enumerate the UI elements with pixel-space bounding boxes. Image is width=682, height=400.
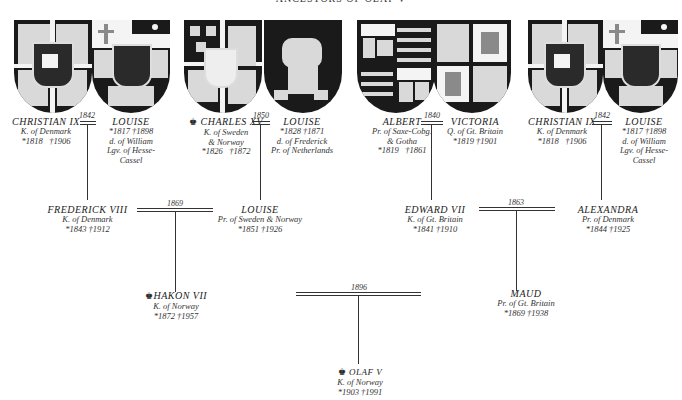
marriage-year: 1869 — [155, 199, 195, 208]
person-title: Pr. of Netherlands — [262, 146, 342, 156]
person-dates: *1851 †1926 — [210, 225, 310, 235]
crown-icon: ♚ — [338, 367, 347, 377]
person-alexandra: ALEXANDRA Pr. of Denmark *1844 †1925 — [568, 204, 648, 234]
coat-of-arms-christian-louise — [14, 20, 172, 113]
person-olaf-v: ♚ OLAF V K. of Norway *1903 †1991 — [325, 367, 395, 397]
person-victoria: VICTORIA Q. of Gt. Britain *1819 †1901 — [440, 116, 510, 146]
coat-of-arms-albert-victoria — [357, 20, 511, 113]
person-title: Cassel — [608, 156, 680, 166]
marriage-year: 1863 — [496, 198, 536, 207]
descent-line — [431, 124, 432, 200]
hesse-shield-icon — [603, 20, 678, 113]
person-louise-sweden: LOUISE Pr. of Sweden & Norway *1851 †192… — [210, 204, 310, 234]
denmark-shield-icon — [14, 20, 92, 113]
person-hakon-vii: ♚HAKON VII K. of Norway *1872 †1957 — [136, 290, 216, 321]
sweden-norway-shield-icon — [184, 20, 262, 113]
descent-line — [516, 211, 517, 291]
person-frederick-viii: FREDERICK VIII K. of Denmark *1843 †1912 — [40, 204, 135, 234]
person-dates: *1818 †1906 — [522, 137, 602, 147]
person-dates: *1843 †1912 — [40, 225, 135, 235]
descent-line — [87, 124, 88, 200]
hesse-shield-icon — [92, 20, 170, 113]
person-title: Cassel — [96, 156, 166, 166]
person-dates: *1818 †1906 — [6, 137, 86, 147]
descent-line — [175, 212, 176, 292]
person-dates: *1844 †1925 — [568, 225, 648, 235]
crown-icon: ♚ — [189, 117, 198, 127]
person-christian-ix-2: CHRISTIAN IX K. of Denmark *1818 †1906 — [522, 116, 602, 146]
person-louise-hesse: LOUISE *1817 †1898 d. of William Lgv. of… — [96, 116, 166, 165]
coat-of-arms-christian-louise-2 — [528, 20, 678, 113]
descent-line — [601, 124, 602, 200]
united-kingdom-shield-icon — [433, 20, 511, 113]
descent-line — [260, 124, 261, 200]
chart-title: ANCESTORS OF OLAF V — [0, 0, 682, 4]
person-dates: *1872 †1957 — [136, 312, 216, 322]
saxe-coburg-shield-icon — [357, 20, 435, 113]
person-dates: *1841 †1910 — [395, 225, 475, 235]
descent-line — [358, 296, 359, 364]
person-dates: *1826 †1872 — [186, 147, 266, 157]
person-edward-vii: EDWARD VII K. of Gt. Britain *1841 †1910 — [395, 204, 475, 234]
person-dates: *1903 †1991 — [325, 388, 395, 398]
coat-of-arms-charles-louise — [184, 20, 346, 113]
person-maud: MAUD Pr. of Gt. Britain *1869 †1938 — [486, 288, 566, 318]
marriage-year: 1896 — [339, 283, 379, 292]
person-dates: *1819 †1901 — [440, 137, 510, 147]
person-dates: *1869 †1938 — [486, 309, 566, 319]
denmark-shield-icon — [528, 20, 603, 113]
person-dates: *1819 †1861 — [366, 146, 438, 156]
person-christian-ix: CHRISTIAN IX K. of Denmark *1818 †1906 — [6, 116, 86, 146]
person-louise-netherlands: LOUISE *1828 †1871 d. of Frederick Pr. o… — [262, 116, 342, 156]
netherlands-lion-shield-icon — [264, 20, 342, 113]
person-louise-hesse-2: LOUISE *1817 †1898 d. of William Lgv. of… — [608, 116, 680, 165]
